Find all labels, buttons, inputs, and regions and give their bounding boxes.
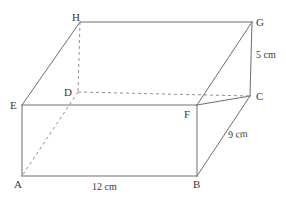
vertex-label-f: F — [184, 109, 190, 120]
vertex-label-e: E — [10, 100, 17, 111]
vertex-label-h: H — [72, 12, 80, 23]
edge-hd-hidden — [78, 22, 80, 92]
vertex-label-g: G — [256, 17, 264, 28]
cuboid-geometry-svg — [0, 0, 286, 200]
edge-gc — [250, 22, 252, 96]
vertex-label-a: A — [14, 179, 22, 190]
vertex-label-b: B — [193, 179, 200, 190]
vertex-label-d: D — [64, 87, 72, 98]
cuboid-diagram: A B C D E F G H 12 cm 9 cm 5 cm — [0, 0, 286, 200]
edge-cf — [197, 96, 250, 105]
dimension-label-length: 12 cm — [92, 182, 117, 192]
dimension-label-depth: 9 cm — [228, 129, 248, 140]
edge-fg — [197, 22, 252, 105]
solid-edges-group — [22, 22, 252, 176]
dimension-label-height: 5 cm — [256, 50, 276, 60]
edge-dc-hidden — [78, 92, 250, 96]
vertex-label-c: C — [256, 91, 263, 102]
hidden-edges-group — [22, 22, 250, 176]
